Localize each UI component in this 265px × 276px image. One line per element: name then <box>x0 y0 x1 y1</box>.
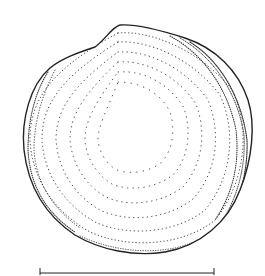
shell-outline <box>23 25 252 254</box>
scale-bar <box>40 268 214 275</box>
shell-illustration <box>0 0 265 276</box>
